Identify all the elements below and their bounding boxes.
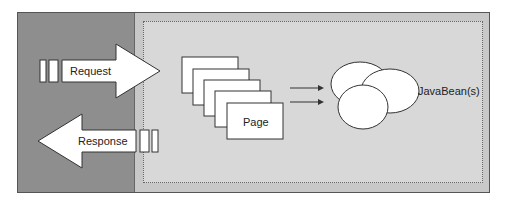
page-label: Page [243,116,269,128]
request-arrow: Request [40,44,160,98]
page-stack: Page [182,57,283,139]
response-arrow: Response [38,114,158,168]
response-label: Response [78,135,128,147]
javabeans: JavaBean(s) [331,62,480,129]
javabeans-label: JavaBean(s) [418,85,480,97]
diagram-shapes: Request Response Page JavaBean(s) [0,0,505,203]
page-to-bean-arrows [290,85,324,105]
request-label: Request [70,65,111,77]
